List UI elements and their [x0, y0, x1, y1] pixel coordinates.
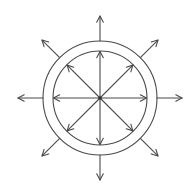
inner-arrow-315 [100, 98, 133, 131]
outer-arrow-270 [97, 155, 104, 180]
outer-arrow-315 [140, 138, 158, 156]
radial-arrows-diagram [0, 0, 190, 189]
arrow-shaft [100, 98, 133, 131]
arrow-shaft [42, 40, 60, 58]
outer-arrow-180 [18, 95, 43, 102]
arrow-shaft [42, 138, 60, 156]
arrow-shaft [67, 98, 100, 131]
outer-arrow-135 [42, 40, 60, 58]
arrow-shaft [140, 138, 158, 156]
inner-arrow-225 [67, 98, 100, 131]
inner-arrow-135 [67, 65, 100, 98]
inner-arrow-45 [100, 65, 133, 98]
center-hub [98, 96, 102, 100]
inner-arrow-0 [100, 95, 147, 102]
outer-arrow-45 [140, 40, 158, 58]
arrow-shaft [140, 40, 158, 58]
inner-arrow-180 [54, 95, 101, 102]
outer-arrow-225 [42, 138, 60, 156]
arrow-shaft [67, 65, 100, 98]
inner-arrow-90 [97, 52, 104, 99]
outer-arrow-90 [97, 16, 104, 41]
arrow-shaft [100, 65, 133, 98]
outer-arrow-0 [157, 95, 182, 102]
inner-arrow-270 [97, 98, 104, 145]
